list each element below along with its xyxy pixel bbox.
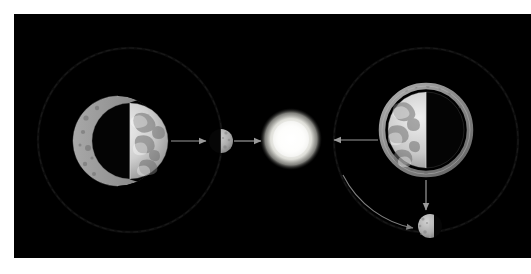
right-earth: [388, 92, 464, 168]
right-system-small-moon: [418, 214, 442, 238]
astronomy-diagram: [14, 14, 531, 258]
sun-core: [273, 121, 309, 157]
sun: [260, 108, 322, 170]
space-background: [14, 14, 531, 258]
right-earth-moon-system: [334, 48, 518, 238]
figure-root: [0, 0, 531, 274]
left-earth: [92, 103, 168, 179]
orbital-motion-curved-arrow: [343, 175, 413, 228]
left-earth-moon-system: [38, 48, 261, 232]
left-system-small-moon: [209, 129, 233, 153]
